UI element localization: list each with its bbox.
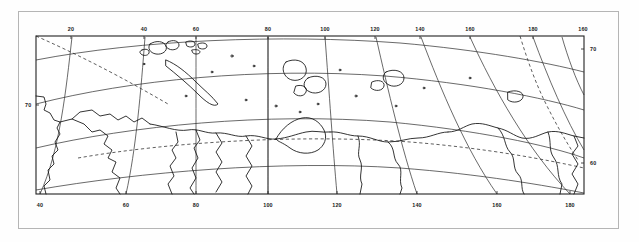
axis-label-top-80: 80 [265,26,271,32]
axis-label-top-160: 160 [465,26,475,32]
axis-label-right-70: 70 [590,46,596,52]
figure-root: 20 40 60 80 100 120 140 160 180 160 40 6… [0,0,639,242]
axis-label-bottom-100: 100 [263,202,273,208]
axis-label-bottom-120: 120 [332,202,342,208]
axis-label-bottom-60: 60 [123,202,129,208]
axis-label-bottom-140: 140 [412,202,422,208]
axis-label-top-20: 20 [68,26,74,32]
axis-label-bottom-40: 40 [37,202,43,208]
map-canvas [0,0,639,242]
map-svg [0,0,639,242]
axis-label-bottom-80: 80 [193,202,199,208]
axis-label-top-100: 100 [320,26,330,32]
axis-label-top-140: 140 [415,26,425,32]
axis-label-left-70: 70 [25,102,31,108]
axis-label-top-160w: 160 [578,26,588,32]
axis-label-top-180: 180 [528,26,538,32]
axis-label-top-40: 40 [141,26,147,32]
axis-label-top-120: 120 [370,26,380,32]
axis-label-bottom-180: 180 [565,202,575,208]
axis-label-bottom-160: 160 [492,202,502,208]
axis-label-right-60: 60 [590,160,596,166]
map-neatline [36,36,584,194]
axis-label-top-60: 60 [193,26,199,32]
